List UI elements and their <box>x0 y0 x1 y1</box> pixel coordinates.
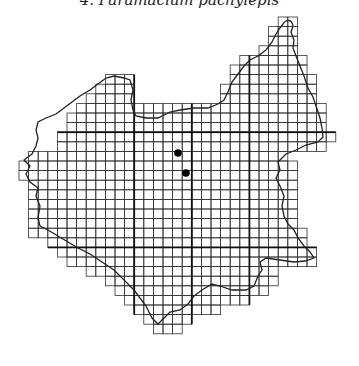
grid-cell <box>182 315 192 325</box>
grid-cell <box>48 151 58 161</box>
grid-cell <box>144 132 154 142</box>
grid-cell <box>240 161 250 171</box>
grid-cell <box>230 219 240 229</box>
grid-cell <box>201 219 211 229</box>
grid-cell <box>182 219 192 229</box>
grid-cell <box>240 247 250 257</box>
grid-cell <box>125 295 135 305</box>
grid-cell <box>230 161 240 171</box>
grid-cell <box>163 209 173 219</box>
grid-cell <box>144 190 154 200</box>
grid-cell <box>153 276 163 286</box>
grid-cell <box>240 123 250 133</box>
grid-cell <box>125 199 135 209</box>
grid-cell <box>173 171 183 181</box>
grid-cell <box>240 132 250 142</box>
grid-cell <box>249 103 259 113</box>
grid-cell <box>153 171 163 181</box>
grid-cell <box>278 65 288 75</box>
grid-cell <box>211 123 221 133</box>
grid-cell <box>105 84 115 94</box>
grid-cell <box>230 132 240 142</box>
grid-cell <box>182 257 192 267</box>
grid-cell <box>192 219 202 229</box>
grid-cell <box>221 199 231 209</box>
grid-cell <box>48 238 58 248</box>
grid-cell <box>125 190 135 200</box>
grid-cell <box>221 257 231 267</box>
grid-cell <box>153 132 163 142</box>
grid-cell <box>67 132 77 142</box>
grid-cell <box>173 286 183 296</box>
grid-cell <box>297 113 307 123</box>
grid-cell <box>269 55 279 65</box>
grid-cell <box>278 84 288 94</box>
grid-cell <box>240 113 250 123</box>
grid-cell <box>182 180 192 190</box>
grid-cell <box>96 199 106 209</box>
grid-cell <box>153 286 163 296</box>
grid-cell <box>240 142 250 152</box>
grid-cell <box>249 142 259 152</box>
grid-cell <box>86 151 96 161</box>
grid-cell <box>317 132 327 142</box>
grid-cell <box>259 94 269 104</box>
grid-cell <box>134 247 144 257</box>
grid-cell <box>182 142 192 152</box>
grid-cell <box>57 161 67 171</box>
grid-cell <box>125 113 135 123</box>
grid-cell <box>249 113 259 123</box>
grid-cell <box>115 209 125 219</box>
grid-cell <box>96 209 106 219</box>
grid-cell <box>105 228 115 238</box>
grid-cell <box>163 238 173 248</box>
grid-cell <box>297 84 307 94</box>
grid-cell <box>249 257 259 267</box>
grid-cell <box>163 161 173 171</box>
record-dot <box>174 149 182 157</box>
grid-cell <box>230 199 240 209</box>
grid-cell <box>115 257 125 267</box>
grid-cell <box>259 123 269 133</box>
grid-cell <box>240 267 250 277</box>
grid-cell <box>192 180 202 190</box>
grid-cell <box>77 123 87 133</box>
grid-cell <box>77 142 87 152</box>
grid-cell <box>29 199 39 209</box>
grid-cell <box>153 190 163 200</box>
grid-cell <box>201 132 211 142</box>
grid-cell <box>67 199 77 209</box>
grid-cell <box>134 267 144 277</box>
grid-cell <box>259 180 269 190</box>
grid-cell <box>192 209 202 219</box>
grid-cell <box>230 209 240 219</box>
grid-cell <box>153 295 163 305</box>
grid-cell <box>115 190 125 200</box>
grid-cell <box>259 171 269 181</box>
grid-cell <box>86 94 96 104</box>
grid-cell <box>77 257 87 267</box>
grid-cell <box>163 315 173 325</box>
grid-cell <box>278 132 288 142</box>
grid-cell <box>96 161 106 171</box>
grid-cell <box>201 151 211 161</box>
grid-cell <box>240 257 250 267</box>
grid-cell <box>86 132 96 142</box>
grid-cell <box>221 103 231 113</box>
grid-cell <box>192 171 202 181</box>
grid-cell <box>96 84 106 94</box>
grid-cell <box>86 190 96 200</box>
grid-cell <box>307 123 317 133</box>
grid-cell <box>259 238 269 248</box>
grid-cell <box>278 94 288 104</box>
grid-cell <box>259 286 269 296</box>
grid-cell <box>269 199 279 209</box>
grid-cell <box>144 199 154 209</box>
grid-cell <box>288 190 298 200</box>
grid-cell <box>125 209 135 219</box>
grid-cell <box>297 247 307 257</box>
grid-cell <box>192 142 202 152</box>
grid-cell <box>144 276 154 286</box>
grid-cell <box>249 190 259 200</box>
grid-cell <box>134 142 144 152</box>
